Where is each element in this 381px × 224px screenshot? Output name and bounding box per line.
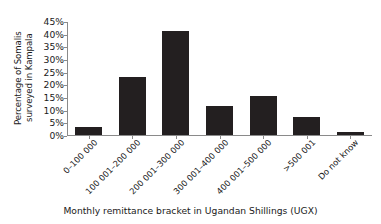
y-axis-tick-mark (64, 60, 67, 61)
x-axis-tick-labels: 0–100 000100 001–200 000200 001–300 0003… (0, 138, 381, 200)
bar (337, 132, 364, 135)
y-axis-tick-mark (64, 123, 67, 124)
y-axis-tick-label: 40% (44, 30, 64, 39)
y-axis-tick-mark (64, 111, 67, 112)
bar (119, 77, 146, 135)
y-axis-tick-mark (64, 73, 67, 74)
y-axis-tick-label: 10% (44, 106, 64, 115)
y-axis-line (67, 22, 68, 136)
bar (206, 106, 233, 135)
y-axis-tick-mark (64, 35, 67, 36)
y-axis-tick-mark (64, 136, 67, 137)
y-axis-tick-mark (64, 85, 67, 86)
y-axis-tick-label: 35% (44, 43, 64, 52)
x-axis-tick-label: Do not know (317, 138, 360, 181)
y-axis-tick-mark (64, 98, 67, 99)
y-axis-title-line-1: Percentage of Somalis (14, 18, 23, 138)
x-axis-tick-label: >500 001 (281, 138, 316, 173)
y-axis-tick-label: 5% (49, 119, 64, 128)
y-axis-tick-label: 30% (44, 55, 64, 64)
y-axis-tick-label: 45% (44, 17, 64, 26)
y-axis-tick-label: 15% (44, 93, 64, 102)
bar (293, 117, 320, 135)
bar-chart-figure: Percentage of Somalis surveyed in Kampal… (0, 0, 381, 224)
x-axis-tick-label: 0–100 000 (62, 138, 99, 175)
bar (75, 127, 102, 135)
y-axis-title-line-2: surveyed in Kampala (25, 18, 34, 138)
y-axis-tick-mark (64, 47, 67, 48)
y-axis-tick-label: 25% (44, 68, 64, 77)
x-axis-title: Monthly remittance bracket in Ugandan Sh… (0, 206, 381, 215)
bar (162, 31, 189, 135)
plot-area (67, 22, 372, 136)
bar (250, 96, 277, 135)
y-axis-tick-mark (64, 22, 67, 23)
y-axis-tick-label: 20% (44, 81, 64, 90)
